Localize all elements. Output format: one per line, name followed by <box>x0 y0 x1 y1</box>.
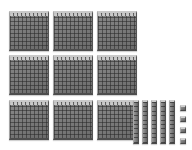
hundred-flat[interactable] <box>9 55 49 95</box>
hundred-flat[interactable] <box>97 55 137 95</box>
hundred-flat[interactable] <box>53 11 93 51</box>
unit-cube[interactable] <box>180 127 186 133</box>
unit-cube[interactable] <box>180 105 186 111</box>
ten-rod[interactable] <box>142 100 148 144</box>
hundred-flat[interactable] <box>97 11 137 51</box>
ten-rod[interactable] <box>160 100 166 144</box>
hundred-flat[interactable] <box>53 100 93 140</box>
hundred-flat[interactable] <box>9 11 49 51</box>
hundred-flat[interactable] <box>97 100 137 140</box>
unit-cube[interactable] <box>180 138 186 144</box>
hundred-flat[interactable] <box>53 55 93 95</box>
base-ten-blocks-canvas: 954 9 hundreds, 5 tens, 4 ones <box>0 0 192 150</box>
ten-rod[interactable] <box>169 100 175 144</box>
ten-rod[interactable] <box>133 100 139 144</box>
hundred-flat[interactable] <box>9 100 49 140</box>
unit-cube[interactable] <box>180 116 186 122</box>
ten-rod[interactable] <box>151 100 157 144</box>
